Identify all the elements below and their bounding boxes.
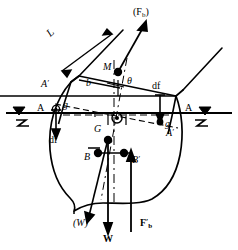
ap-left-prime: ′ [47,79,49,88]
centre-of-buoyancy-heeled-marker [120,149,128,157]
buoyancy-force-inclined-vector [118,21,147,72]
centre-of-buoyancy-marker [94,149,102,157]
label-buoyancy-force-inclined: (Fb) [133,7,149,19]
fb-close: ) [145,6,148,17]
label-righting-arm-b: b [86,78,91,88]
metacentre-marker [114,68,122,76]
label-df-left: df [49,135,57,145]
fbv-sub: b [148,222,152,230]
stability-diagram-svg [0,0,238,250]
hull-outline [50,82,182,211]
water-surface-symbol-right [195,107,211,126]
g-right-marker [157,119,164,126]
ap-right-prime: ′ [172,128,174,137]
label-heeled-waterline-A-prime-left: A′ [41,79,49,89]
label-heel-angle-theta: θ [127,76,132,86]
deck-edge-left-vertical [59,76,80,124]
weight-vertical-vector [104,143,112,234]
label-buoyancy-vertical: F′b [140,218,152,230]
label-centre-of-gravity-G: G [94,124,101,134]
water-surface-symbol-left [13,107,29,126]
label-waterline-A-left: A [37,103,44,113]
label-weight-vertical-W: W [103,234,113,244]
label-waterline-A-right: A [185,103,192,113]
label-metacentre-M: M [103,62,111,72]
g-left-circled-dot-inner [55,108,58,111]
figure-canvas: L (Fb) M θ b df df g g A A A′ A′ G B B′ … [0,0,238,250]
label-weight-inclined: (W) [73,218,88,228]
fb-open: (F [133,6,142,17]
origin-circled-dot-inner [115,116,119,120]
label-heeled-waterline-A-prime-right: A′ [166,128,174,138]
label-g-left: g [63,100,68,110]
label-df-right: df [152,81,160,91]
label-centre-of-buoyancy-B-prime: B′ [132,155,140,165]
bp-prime: ′ [138,155,140,164]
label-centre-of-buoyancy-B: B [84,152,90,162]
centre-of-gravity-marker [104,136,112,144]
